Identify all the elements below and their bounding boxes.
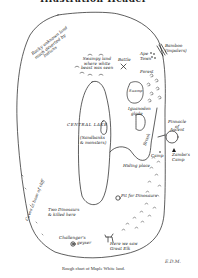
label-word: of [36, 187, 42, 193]
label-word: at [29, 203, 35, 209]
label-pit: Pit for Dinosaurs [121, 194, 157, 199]
label-central-lake: CENTRAL LAKE [67, 123, 108, 128]
label-line: beast was seen [77, 66, 117, 71]
label-line: Town [140, 57, 151, 62]
battle-x-icon [121, 64, 126, 69]
iguanodon-glade-outline [136, 114, 145, 130]
label-swamp: Swamp [129, 89, 142, 94]
label-hiding-place: Hiding place [123, 164, 150, 169]
pinnacle-ring [166, 131, 178, 143]
label-camp: Camp [151, 154, 163, 159]
label-bamboo: Bamboo (impalers) [165, 44, 187, 53]
label-swampy-land: Swampy land where white beast was seen [77, 57, 117, 71]
label-ape-town: Ape Town [140, 52, 151, 61]
pit-icon [116, 196, 120, 200]
label-line: Great Elk [110, 247, 138, 252]
label-line: & monsters) [80, 141, 106, 146]
label-two-dinosaurs: Two Dinosaurs & killed here [48, 208, 80, 217]
label-line: & killed here [48, 213, 80, 218]
label-forest: Forest [140, 70, 154, 75]
map-caption: Rough chart of Maple White land. [62, 266, 125, 271]
label-line: Ascent [168, 128, 186, 133]
label-line: geyser [59, 241, 91, 246]
author-initials: E.D.M. [165, 259, 181, 264]
label-iguanodon-glade: Iguanodon glade [128, 107, 151, 116]
label-pinnacle: Pinnacle of Ascent [168, 120, 186, 133]
label-zambo-camp: Zambo's Camp [172, 153, 190, 162]
label-line: Camp [172, 158, 190, 163]
label-battle: Battle [118, 58, 131, 63]
forest-clumps [122, 74, 161, 230]
label-sandbanks: (Sandbanks & monsters) [80, 136, 106, 145]
label-line: glade [128, 112, 151, 117]
label-line: (impalers) [165, 49, 187, 54]
label-challenger-geyser: Challenger's geyser [59, 236, 91, 245]
label-great-elk: Here we saw Great Elk [110, 242, 138, 251]
